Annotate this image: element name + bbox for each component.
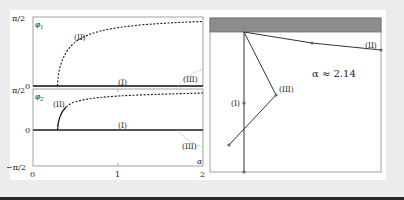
top-label-III: (III) — [183, 75, 198, 84]
pendulum-II-end — [379, 48, 382, 51]
bottom-label-III: (III) — [182, 142, 197, 151]
top-label-II: (II) — [74, 33, 86, 42]
xtick-0: 0 — [30, 170, 35, 179]
xtick-1: 1 — [115, 170, 120, 179]
xlabel-alpha: α — [197, 157, 202, 166]
top-ytick-pi-half: π/2 — [12, 14, 25, 23]
figure-canvas: π/2 0 φ1 (II) (I) (III) π/2 0 −π/2 0 1 2… — [0, 0, 404, 200]
schematic-label-I: (I) — [231, 99, 240, 108]
pendulum-II-joint — [310, 41, 313, 44]
top-ytick-zero: 0 — [25, 82, 30, 91]
ceiling-bar — [210, 18, 381, 32]
bottom-ytick-zero: 0 — [25, 126, 30, 135]
bottom-label-I: (I) — [118, 121, 127, 130]
pendulum-I-end — [242, 170, 245, 173]
bottom-divider-bar — [0, 197, 404, 200]
bottom-label-II: (II) — [53, 100, 65, 109]
top-label-I: (I) — [118, 78, 127, 87]
bottom-ytick-pi-half: π/2 — [12, 86, 25, 95]
figure: π/2 0 φ1 (II) (I) (III) π/2 0 −π/2 0 1 2… — [0, 0, 404, 200]
pendulum-III-end — [227, 143, 230, 146]
bottom-ytick-neg-pi-half: −π/2 — [6, 163, 26, 172]
schematic-label-III: (III) — [279, 85, 294, 94]
pendulum-I-joint — [242, 101, 245, 104]
alpha-value-label: α ≈ 2.14 — [312, 68, 356, 79]
xtick-2: 2 — [200, 170, 205, 179]
pendulum-schematic: (I) (III) (II) α ≈ 2.14 — [210, 18, 383, 174]
pendulum-III-joint — [274, 93, 277, 96]
schematic-frame — [210, 18, 381, 172]
schematic-label-II: (II) — [365, 41, 377, 50]
